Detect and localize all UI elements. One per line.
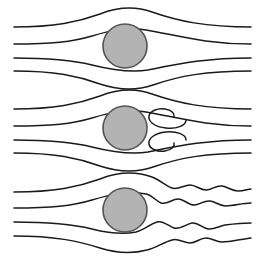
cylinder bbox=[103, 106, 147, 150]
flow-regimes-figure bbox=[0, 0, 265, 256]
cylinder bbox=[103, 24, 147, 68]
cylinder bbox=[103, 188, 147, 232]
flow-diagram-svg bbox=[0, 0, 265, 256]
